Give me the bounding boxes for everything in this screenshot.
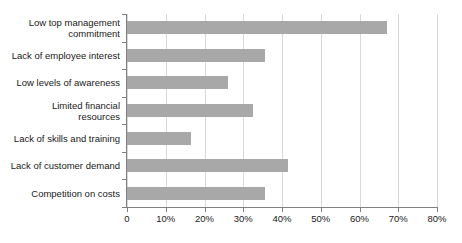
- x-axis-tick-label: 80%: [427, 213, 446, 225]
- category-label: Limited financial resources: [0, 100, 120, 122]
- x-axis-tick-label: 40%: [272, 213, 291, 225]
- x-axis-tick-label: 50%: [311, 213, 330, 225]
- x-axis-tick: [243, 208, 244, 212]
- bar: [127, 187, 265, 200]
- y-axis-tick: [122, 69, 127, 70]
- x-axis-tick-label: 0: [124, 213, 129, 225]
- bar-chart: Low top management commitmentLack of emp…: [0, 0, 462, 243]
- category-label: Lack of customer demand: [0, 160, 120, 171]
- y-axis-tick: [122, 179, 127, 180]
- y-axis-tick: [122, 124, 127, 125]
- x-axis-tick: [360, 208, 361, 212]
- gridline-80: [437, 14, 438, 207]
- bar: [127, 132, 191, 145]
- x-axis-tick: [398, 208, 399, 212]
- gridline-50: [321, 14, 322, 207]
- x-axis-tick: [282, 208, 283, 212]
- x-axis-tick: [127, 208, 128, 212]
- bar: [127, 49, 265, 62]
- x-axis-tick: [437, 208, 438, 212]
- bar: [127, 76, 228, 89]
- category-label: Competition on costs: [0, 188, 120, 199]
- y-axis-tick: [122, 14, 127, 15]
- category-label: Low levels of awareness: [0, 77, 120, 88]
- x-axis-tick-label: 70%: [389, 213, 408, 225]
- bar: [127, 159, 288, 172]
- category-label: Lack of skills and training: [0, 133, 120, 144]
- x-axis-tick: [166, 208, 167, 212]
- x-axis-tick: [205, 208, 206, 212]
- gridline-70: [398, 14, 399, 207]
- gridline-40: [282, 14, 283, 207]
- x-axis-tick-label: 30%: [234, 213, 253, 225]
- y-axis-tick: [122, 152, 127, 153]
- y-axis-tick: [122, 97, 127, 98]
- x-axis-tick-label: 20%: [195, 213, 214, 225]
- category-label: Lack of employee interest: [0, 50, 120, 61]
- y-axis-line: [126, 14, 127, 207]
- x-axis-tick-label: 60%: [350, 213, 369, 225]
- y-axis-tick: [122, 42, 127, 43]
- bar: [127, 21, 387, 34]
- gridline-60: [360, 14, 361, 207]
- category-label: Low top management commitment: [0, 17, 120, 39]
- x-axis-tick-label: 10%: [156, 213, 175, 225]
- x-axis-tick: [321, 208, 322, 212]
- plot-area: [127, 14, 437, 207]
- bar: [127, 104, 253, 117]
